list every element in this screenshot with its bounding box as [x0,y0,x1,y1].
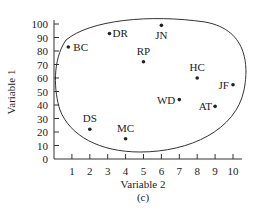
y-tick-label: 40 [37,99,49,111]
point-marker-icon [108,32,112,36]
y-tick-label: 0 [43,153,49,165]
y-tick-label: 20 [37,126,49,138]
scatter-chart: 010203040506070809010012345678910 BCDRJN… [0,0,264,218]
point-marker-icon [142,60,146,64]
x-tick-label: 5 [141,165,147,177]
data-point-hc: HC [190,61,205,80]
x-tick-label: 8 [194,165,200,177]
point-marker-icon [213,105,217,109]
y-tick-label: 60 [37,72,49,84]
data-point-jf: JF [219,79,235,91]
y-tick-label: 90 [37,32,49,44]
y-tick-label: 70 [37,59,49,71]
data-point-ds: DS [83,112,97,131]
point-marker-icon [88,128,92,132]
x-tick-label: 4 [123,165,129,177]
point-marker-icon [160,24,164,28]
point-marker-icon [178,98,182,102]
point-label: BC [73,41,88,53]
x-tick-label: 3 [105,165,111,177]
y-tick-label: 80 [37,45,49,57]
y-tick-label: 30 [37,113,49,125]
point-label: DR [112,27,128,39]
x-tick-label: 7 [177,165,183,177]
y-tick-label: 10 [37,140,49,152]
y-axis-label: Variable 1 [5,70,17,115]
data-point-at: AT [199,100,217,112]
x-tick-label: 6 [159,165,165,177]
data-points: BCDRJNRPHCJFWDATDSMC [67,24,235,141]
data-point-dr: DR [108,27,129,39]
point-marker-icon [231,83,235,87]
point-marker-icon [195,76,199,80]
x-tick-label: 2 [87,165,93,177]
point-label: WD [157,94,175,106]
data-point-jn: JN [155,24,167,42]
point-label: HC [190,61,205,73]
point-label: DS [83,112,97,124]
point-label: JF [219,79,229,91]
point-marker-icon [67,45,71,49]
y-tick-label: 50 [37,86,49,98]
axes: 010203040506070809010012345678910 [32,18,242,177]
x-axis-label: Variable 2 [121,178,166,190]
enclosing-curve [55,19,246,152]
point-label: AT [199,100,213,112]
point-label: JN [155,29,167,41]
point-label: MC [117,122,134,134]
data-point-wd: WD [157,94,181,106]
data-point-rp: RP [137,45,150,64]
x-tick-label: 9 [212,165,218,177]
x-tick-label: 10 [228,165,240,177]
chart-caption: (c) [137,191,150,204]
point-marker-icon [124,137,128,141]
data-point-bc: BC [67,41,88,53]
y-tick-label: 100 [32,18,49,30]
data-point-mc: MC [117,122,134,141]
x-tick-label: 1 [69,165,75,177]
point-label: RP [137,45,150,57]
